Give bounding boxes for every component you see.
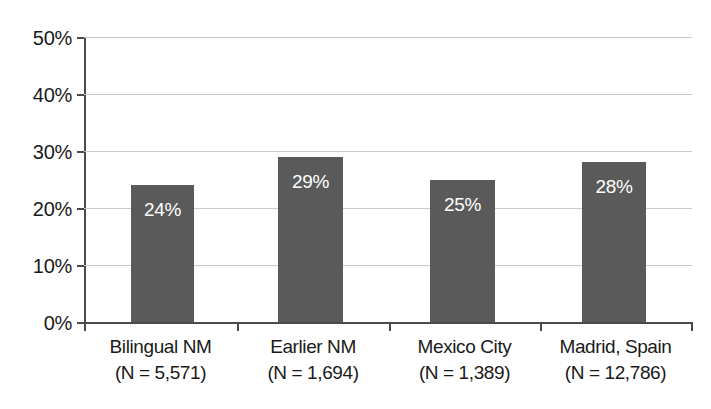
x-axis-tick-0	[84, 322, 86, 331]
gridline-40	[84, 94, 692, 95]
y-axis-tick-label-10: 10%	[33, 255, 72, 278]
y-axis-labels: 50% 40% 30% 20% 10% 0%	[0, 0, 72, 409]
gridline-30	[84, 151, 692, 152]
y-axis-tick-label-50: 50%	[33, 27, 72, 50]
category-sublabel-mexico-city: (N = 1,389)	[389, 360, 540, 386]
gridline-50	[84, 37, 692, 38]
x-axis-tick-1	[237, 322, 239, 331]
category-name-bilingual-nm: Bilingual NM	[110, 336, 212, 357]
x-axis-category-earlier-nm: Earlier NM (N = 1,694)	[237, 334, 389, 386]
bar-madrid-spain: 28%	[582, 162, 646, 322]
x-axis-tick-2	[389, 322, 391, 331]
bar-earlier-nm: 29%	[278, 157, 343, 322]
x-axis-tick-4	[691, 322, 693, 331]
bar-value-label-mexico-city: 25%	[430, 194, 495, 216]
bar-bilingual-nm: 24%	[131, 185, 194, 322]
bar-mexico-city: 25%	[430, 180, 495, 323]
bar-value-label-bilingual-nm: 24%	[131, 199, 194, 221]
x-axis-category-mexico-city: Mexico City (N = 1,389)	[389, 334, 540, 386]
y-axis-tick-label-20: 20%	[33, 198, 72, 221]
x-axis-category-madrid-spain: Madrid, Spain (N = 12,786)	[540, 334, 691, 386]
bar-value-label-madrid-spain: 28%	[582, 176, 646, 198]
category-name-mexico-city: Mexico City	[418, 336, 512, 357]
plot-area: 24% 29% 25% 28%	[84, 37, 692, 322]
y-axis-tick-label-30: 30%	[33, 141, 72, 164]
category-sublabel-earlier-nm: (N = 1,694)	[237, 360, 389, 386]
bar-chart: 50% 40% 30% 20% 10% 0% 24% 29% 25%	[0, 0, 711, 409]
category-sublabel-madrid-spain: (N = 12,786)	[540, 360, 691, 386]
y-axis-tick-label-0: 0%	[44, 312, 72, 335]
x-axis-tick-3	[540, 322, 542, 331]
category-name-earlier-nm: Earlier NM	[270, 336, 356, 357]
category-sublabel-bilingual-nm: (N = 5,571)	[84, 360, 237, 386]
x-axis-category-bilingual-nm: Bilingual NM (N = 5,571)	[84, 334, 237, 386]
category-name-madrid-spain: Madrid, Spain	[559, 336, 671, 357]
x-axis-line	[84, 322, 692, 324]
y-axis-tick-label-40: 40%	[33, 84, 72, 107]
bar-value-label-earlier-nm: 29%	[278, 171, 343, 193]
